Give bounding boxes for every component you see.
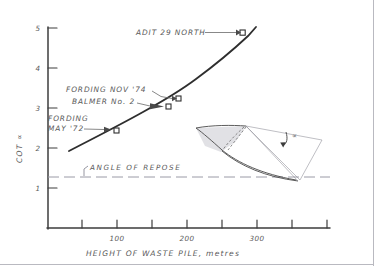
figure-container: 5 4 3 2 1 COT ∝ 100 200 300 HEIGHT OF WA…	[0, 0, 374, 266]
label-balmer-no-2: BALMER No. 2	[72, 97, 135, 106]
waste-pile-slope-chart: 5 4 3 2 1 COT ∝ 100 200 300 HEIGHT OF WA…	[0, 0, 374, 266]
inset-angle-arrowhead	[280, 142, 286, 147]
annotation-fording-may-72: FORDING MAY '72	[48, 114, 111, 133]
y-tick-label-3: 3	[36, 104, 41, 113]
y-axis-ticks	[48, 28, 57, 188]
y-tick-label-2: 2	[36, 144, 41, 153]
inset-construction-edge	[300, 140, 322, 180]
label-fording-may-72-line2: MAY '72	[48, 124, 84, 133]
x-tick-label-200: 200	[180, 234, 195, 243]
label-adit-29-north: ADIT 29 NORTH	[135, 28, 206, 37]
angle-of-repose-label: ANGLE OF REPOSE	[89, 163, 181, 172]
label-fording-nov-74: FORDING NOV '74	[66, 85, 146, 94]
y-tick-label-4: 4	[36, 64, 41, 73]
annotation-balmer-no-2: BALMER No. 2	[72, 97, 164, 109]
leader-fording-nov-74	[152, 91, 161, 97]
inset-cross-section-diagram: ∝	[196, 125, 322, 181]
inset-pile-shading	[196, 126, 246, 152]
x-axis-title: HEIGHT OF WASTE PILE, metres	[86, 249, 240, 258]
x-tick-label-100: 100	[110, 234, 125, 243]
x-axis-ticks	[82, 220, 327, 228]
y-tick-label-1: 1	[36, 184, 41, 193]
label-fording-may-72-line1: FORDING	[48, 114, 89, 123]
y-tick-label-5: 5	[36, 24, 41, 33]
chart-axes	[47, 27, 330, 229]
angle-of-repose-leader	[84, 166, 88, 176]
x-tick-label-300: 300	[250, 234, 265, 243]
x-axis-tick-labels: 100 200 300	[110, 234, 265, 243]
y-axis-tick-labels: 5 4 3 2 1	[36, 24, 41, 193]
inset-alpha-label: ∝	[292, 132, 297, 140]
marker-balmer-no-2[interactable]	[166, 104, 171, 109]
leader-balmer-no-2	[137, 103, 150, 106]
annotation-adit-29-north: ADIT 29 NORTH	[135, 28, 241, 37]
y-axis-title: COT ∝	[15, 133, 24, 163]
marker-fording-may-72[interactable]	[114, 128, 119, 133]
leader-fording-may-72	[84, 129, 104, 130]
